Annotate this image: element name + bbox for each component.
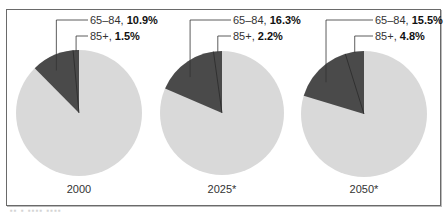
label-65-84: 65–84, 10.9% bbox=[90, 14, 158, 26]
caption-fragment: ▪▪ ▪ ▪▪▪▪ ▪▪▪▪ bbox=[10, 206, 62, 215]
pie-2050: 65–84, 15.5%85+, 4.8%2050* bbox=[301, 14, 443, 195]
leader-line-85plus bbox=[218, 36, 231, 52]
pie-2000: 65–84, 10.9%85+, 1.5%2000 bbox=[16, 14, 158, 195]
year-label: 2000 bbox=[67, 183, 91, 195]
label-85plus: 85+, 1.5% bbox=[90, 30, 140, 42]
pie-charts: 65–84, 10.9%85+, 1.5%200065–84, 16.3%85+… bbox=[0, 0, 448, 216]
year-label: 2025* bbox=[208, 183, 237, 195]
year-label: 2050* bbox=[350, 183, 379, 195]
leader-line-85plus bbox=[355, 36, 373, 53]
label-85plus: 85+, 4.8% bbox=[375, 30, 425, 42]
leader-line-85plus bbox=[76, 36, 88, 51]
pie-2025: 65–84, 16.3%85+, 2.2%2025* bbox=[160, 14, 301, 195]
label-65-84: 65–84, 15.5% bbox=[375, 14, 443, 26]
label-85plus: 85+, 2.2% bbox=[233, 30, 283, 42]
label-65-84: 65–84, 16.3% bbox=[233, 14, 301, 26]
